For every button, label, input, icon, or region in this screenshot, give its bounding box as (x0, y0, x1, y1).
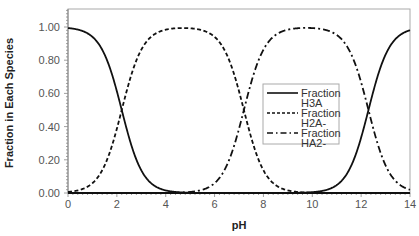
y-tick-label: 0.20 (39, 154, 60, 166)
y-axis-ticks: 0.000.200.400.600.801.00 (39, 10, 68, 199)
x-tick-label: 10 (306, 198, 318, 210)
data-series (68, 28, 410, 193)
series-line-0 (68, 28, 410, 193)
series-line-2 (68, 28, 410, 193)
y-axis-title: Fraction in Each Species (3, 38, 15, 168)
legend-label-ha2-line2: HA2- (301, 137, 326, 149)
y-tick-label: 0.40 (39, 121, 60, 133)
series-line-3 (68, 30, 410, 193)
x-tick-label: 2 (114, 198, 120, 210)
x-tick-label: 4 (163, 198, 169, 210)
y-tick-label: 0.60 (39, 87, 60, 99)
x-tick-label: 8 (260, 198, 266, 210)
y-tick-label: 1.00 (39, 21, 60, 33)
y-tick-label: 0.00 (39, 187, 60, 199)
y-tick-label: 0.80 (39, 54, 60, 66)
x-axis-ticks: 02468101214 (65, 193, 416, 210)
x-tick-label: 6 (212, 198, 218, 210)
x-tick-label: 0 (65, 198, 71, 210)
x-tick-label: 12 (355, 198, 367, 210)
chart-canvas: 02468101214 0.000.200.400.600.801.00 pH … (0, 0, 419, 236)
legend: Fraction H3A Fraction H2A- Fraction HA2- (263, 84, 341, 149)
series-line-1 (68, 28, 410, 193)
x-axis-title: pH (232, 219, 247, 231)
x-tick-label: 14 (404, 198, 416, 210)
